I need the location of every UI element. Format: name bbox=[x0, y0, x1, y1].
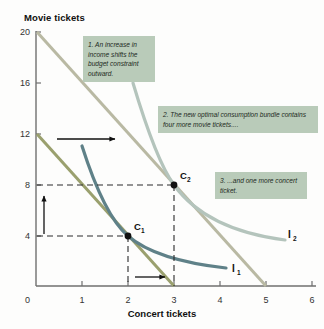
chart-canvas: 20 16 12 8 4 0 1 2 3 4 5 6 bbox=[0, 0, 324, 329]
data-points: C 1 C 2 bbox=[125, 170, 191, 239]
curve-label-i2: I bbox=[288, 229, 291, 240]
y-tick-label-8: 8 bbox=[25, 180, 30, 190]
x-tick-label-2: 2 bbox=[125, 295, 130, 305]
annotation-note-1: 1. An increase in income shifts the budg… bbox=[83, 36, 155, 82]
y-tick-label-4: 4 bbox=[25, 231, 30, 241]
curve-label-i1: I bbox=[232, 263, 235, 274]
annotation-note-3: 3. ...and one more concert ticket. bbox=[215, 172, 307, 199]
x-tick-label-1: 1 bbox=[79, 295, 84, 305]
figure-root: Movie tickets Concert tickets 20 16 12 8… bbox=[0, 0, 324, 329]
y-tick-label-20: 20 bbox=[20, 27, 30, 37]
curve-label-i1-subscript: 1 bbox=[237, 269, 241, 276]
y-axis-ticks: 20 16 12 8 4 0 bbox=[20, 27, 41, 305]
guide-lines bbox=[37, 185, 174, 286]
x-axis-ticks: 1 2 3 4 5 6 bbox=[79, 281, 314, 305]
point-c2-label: C bbox=[180, 170, 187, 181]
annotation-note-2: 2. The new optimal consumption bundle co… bbox=[158, 106, 318, 133]
x-tick-label-5: 5 bbox=[263, 295, 268, 305]
point-c1-label: C bbox=[134, 221, 141, 232]
point-c2-subscript: 2 bbox=[187, 176, 191, 183]
point-c1-marker[interactable] bbox=[125, 233, 132, 240]
point-c2-marker[interactable] bbox=[171, 182, 178, 189]
y-tick-label-0: 0 bbox=[25, 295, 30, 305]
y-tick-label-16: 16 bbox=[20, 78, 30, 88]
x-tick-label-6: 6 bbox=[309, 295, 314, 305]
axes bbox=[36, 31, 316, 286]
curve-label-i2-subscript: 2 bbox=[293, 235, 297, 242]
y-tick-label-12: 12 bbox=[20, 129, 30, 139]
budget-line-1 bbox=[37, 134, 174, 286]
x-tick-label-3: 3 bbox=[171, 295, 176, 305]
point-c1-subscript: 1 bbox=[141, 227, 145, 234]
x-tick-label-4: 4 bbox=[217, 295, 222, 305]
